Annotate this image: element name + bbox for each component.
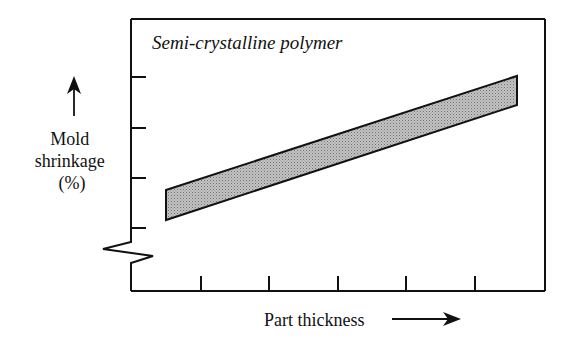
x-axis-ticks bbox=[201, 276, 475, 291]
y-label-line-2: shrinkage bbox=[35, 151, 105, 171]
x-axis-label: Part thickness bbox=[264, 310, 365, 330]
y-axis-line-with-break bbox=[103, 19, 153, 291]
chart-title: Semi-crystalline polymer bbox=[152, 32, 343, 53]
shrinkage-band bbox=[166, 76, 517, 220]
y-label-line-1: Mold bbox=[50, 129, 89, 149]
chart: Semi-crystalline polymer Mold shrinkage … bbox=[0, 0, 570, 348]
x-axis-arrow-icon bbox=[392, 312, 461, 326]
y-axis-ticks bbox=[131, 77, 146, 228]
y-axis-label: Mold shrinkage (%) bbox=[35, 129, 109, 194]
y-label-line-3: (%) bbox=[59, 173, 86, 194]
y-axis-arrow-icon bbox=[67, 76, 81, 116]
